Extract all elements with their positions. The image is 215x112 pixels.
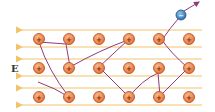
svg-text:+: +	[186, 36, 192, 44]
svg-text:+: +	[186, 65, 192, 73]
ion: +	[124, 34, 135, 45]
ion: +	[64, 63, 75, 74]
ion: +	[154, 34, 165, 45]
ion: +	[184, 63, 195, 74]
field-lines	[22, 30, 202, 105]
ion: +	[124, 92, 135, 103]
ion: +	[124, 63, 135, 74]
ion: +	[94, 92, 105, 103]
svg-text:+: +	[66, 36, 72, 44]
svg-text:+: +	[126, 36, 132, 44]
field-label: E	[11, 63, 19, 74]
ion: +	[34, 92, 45, 103]
ion: +	[154, 92, 165, 103]
ion: +	[184, 92, 195, 103]
svg-text:+: +	[66, 65, 72, 73]
electron-sign: −	[178, 12, 184, 20]
electron: −	[176, 10, 186, 20]
ion: +	[34, 63, 45, 74]
svg-text:+: +	[66, 94, 72, 102]
svg-text:+: +	[96, 65, 102, 73]
svg-text:+: +	[126, 94, 132, 102]
electron-drift-diagram: E + + + + + + + + + + + + + + + + + + −	[0, 0, 215, 112]
svg-text:+: +	[36, 36, 42, 44]
svg-text:+: +	[96, 36, 102, 44]
ion: +	[184, 34, 195, 45]
svg-text:+: +	[36, 65, 42, 73]
svg-text:+: +	[156, 65, 162, 73]
exit-arrow	[184, 2, 199, 11]
ion: +	[64, 92, 75, 103]
svg-text:+: +	[126, 65, 132, 73]
ion: +	[64, 34, 75, 45]
ion: +	[94, 63, 105, 74]
ion: +	[34, 34, 45, 45]
ion: +	[154, 63, 165, 74]
svg-text:+: +	[156, 36, 162, 44]
ion: +	[94, 34, 105, 45]
svg-text:+: +	[186, 94, 192, 102]
svg-text:+: +	[36, 94, 42, 102]
svg-text:+: +	[156, 94, 162, 102]
electron-path	[38, 19, 188, 97]
svg-text:+: +	[96, 94, 102, 102]
